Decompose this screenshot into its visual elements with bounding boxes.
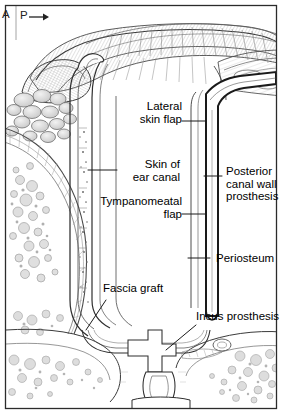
orientation-letter: P — [20, 9, 28, 21]
label-periosteum: Periosteum — [216, 252, 274, 265]
panel-letter: A — [2, 8, 10, 20]
label-fascia-graft: Fascia graft — [103, 282, 163, 295]
label-posterior-canal-wall-prosthesis-line2: canal wall — [226, 178, 278, 191]
label-skin-of-ear-canal: Skin of ear canal — [104, 158, 180, 183]
label-skin-of-ear-canal-line1: Skin of — [104, 158, 180, 171]
label-tympanomeatal-flap: Tympanomeatal flap — [88, 195, 182, 220]
anatomical-figure: A P Lateral skin flap Skin of ear canal … — [0, 0, 287, 417]
label-skin-of-ear-canal-line2: ear canal — [104, 171, 180, 184]
label-tympanomeatal-flap-line1: Tympanomeatal — [88, 195, 182, 208]
label-lateral-skin-flap-line1: Lateral — [104, 100, 182, 113]
label-posterior-canal-wall-prosthesis-line3: prosthesis — [226, 190, 278, 203]
label-tympanomeatal-flap-line2: flap — [88, 208, 182, 221]
label-incus-prosthesis: Incus prosthesis — [196, 310, 279, 323]
label-lateral-skin-flap: Lateral skin flap — [104, 100, 182, 125]
label-posterior-canal-wall-prosthesis: Posterior canal wall prosthesis — [226, 165, 278, 203]
label-lateral-skin-flap-line2: skin flap — [104, 113, 182, 126]
label-posterior-canal-wall-prosthesis-line1: Posterior — [226, 165, 278, 178]
